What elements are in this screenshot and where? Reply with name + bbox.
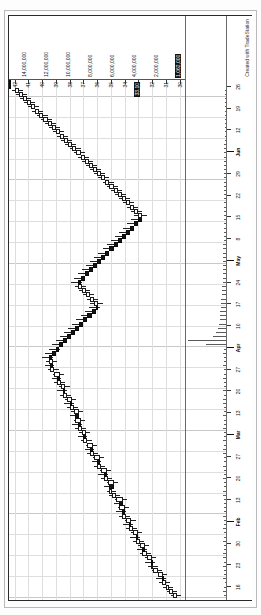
grid-line bbox=[186, 326, 226, 327]
volume-bar bbox=[224, 574, 226, 575]
scale-value[interactable]: 14,000,000 bbox=[21, 52, 27, 77]
date-axis-label: May bbox=[235, 256, 241, 266]
candle-body bbox=[169, 589, 173, 594]
volume-bar bbox=[218, 328, 226, 329]
volume-bar bbox=[225, 140, 226, 141]
chart-frame[interactable]: GBP Daily 563243 42414039383736353433323… bbox=[8, 15, 252, 601]
volume-bar bbox=[223, 282, 227, 283]
volume-pane[interactable] bbox=[186, 16, 227, 600]
volume-bar bbox=[224, 570, 226, 571]
volume-bar bbox=[224, 361, 226, 362]
volume-bar bbox=[225, 90, 226, 91]
price-axis-tick bbox=[125, 80, 126, 84]
scale-value[interactable]: 8,000,000 bbox=[87, 55, 93, 77]
scale-value[interactable]: 4,000,000 bbox=[131, 55, 137, 77]
volume-bar bbox=[224, 511, 226, 512]
candle-body bbox=[64, 138, 68, 143]
candle-body bbox=[122, 196, 126, 201]
grid-line bbox=[186, 117, 226, 118]
scale-value[interactable]: 2,000,000 bbox=[153, 55, 159, 77]
date-axis-tick bbox=[227, 347, 234, 348]
date-axis-label: Apr bbox=[235, 344, 241, 353]
candle-body bbox=[68, 142, 72, 147]
grid-line bbox=[186, 555, 226, 556]
date-axis-label: 27 bbox=[235, 454, 241, 460]
volume-bar bbox=[224, 595, 226, 596]
volume-bar bbox=[224, 457, 226, 458]
date-axis-label: 15 bbox=[235, 215, 241, 221]
volume-bar bbox=[223, 390, 226, 391]
volume-bar bbox=[224, 374, 226, 375]
grid-line bbox=[83, 16, 84, 600]
volume-bar bbox=[224, 148, 226, 149]
candle-body bbox=[82, 430, 86, 435]
candle-body bbox=[134, 209, 138, 214]
grid-line bbox=[138, 16, 139, 600]
date-axis-tick bbox=[227, 173, 231, 174]
volume-bar bbox=[224, 520, 226, 521]
volume-bar bbox=[224, 470, 226, 471]
volume-bar bbox=[224, 236, 226, 237]
volume-bar bbox=[224, 173, 226, 174]
volume-bar bbox=[224, 507, 226, 508]
screenshot-root: GBP Daily 563243 42414039383736353433323… bbox=[0, 0, 261, 615]
scale-value-selected[interactable]: 1,062,000 bbox=[175, 54, 181, 78]
date-axis-label: 26 bbox=[235, 84, 241, 90]
date-axis-tick bbox=[227, 303, 231, 304]
candle-body bbox=[31, 104, 35, 109]
price-axis-tick bbox=[28, 80, 29, 84]
volume-bar bbox=[224, 482, 226, 483]
volume-bar bbox=[223, 365, 226, 366]
volume-bar bbox=[223, 591, 226, 592]
candle-body bbox=[97, 171, 101, 176]
volume-bar bbox=[223, 478, 226, 479]
candle-body bbox=[153, 568, 157, 573]
candle-body bbox=[90, 297, 94, 302]
date-axis-label: 27 bbox=[235, 367, 241, 373]
price-axis-tick bbox=[83, 80, 84, 84]
candle-body bbox=[116, 497, 123, 502]
volume-bar bbox=[224, 461, 226, 462]
volume-bar bbox=[224, 177, 226, 178]
date-axis-pane[interactable]: 162330Feb132027Mar132027Apr101724May8152… bbox=[227, 16, 252, 600]
date-axis-tick bbox=[227, 434, 234, 435]
volume-bar bbox=[223, 403, 226, 404]
candle-body bbox=[19, 92, 23, 97]
date-axis-label: Mar bbox=[235, 430, 241, 439]
date-axis-tick bbox=[227, 390, 231, 391]
date-axis-label: 30 bbox=[235, 541, 241, 547]
grid-line bbox=[186, 179, 226, 180]
scale-value[interactable]: 6,000,000 bbox=[109, 55, 115, 77]
volume-bar bbox=[220, 311, 226, 312]
grid-line bbox=[186, 242, 226, 243]
date-axis-label: 24 bbox=[235, 280, 241, 286]
scale-value[interactable]: 12,000,000 bbox=[43, 52, 49, 77]
price-axis-tick bbox=[166, 80, 167, 84]
volume-bar bbox=[224, 144, 226, 145]
volume-bar bbox=[223, 495, 226, 496]
date-axis-label: 29 bbox=[235, 171, 241, 177]
date-axis-label: 17 bbox=[235, 302, 241, 308]
candle-body bbox=[52, 125, 56, 130]
candle-body bbox=[93, 167, 97, 172]
price-pane[interactable]: 4241403938373635343332313033.10 14,000,0… bbox=[9, 16, 186, 600]
volume-bar bbox=[223, 441, 226, 442]
date-axis-tick bbox=[227, 216, 231, 217]
volume-bar bbox=[221, 299, 226, 300]
date-axis-label: Feb bbox=[235, 517, 241, 526]
date-axis-label: 8 bbox=[235, 238, 241, 241]
scale-value[interactable]: 10,000,000 bbox=[65, 52, 71, 77]
volume-bar bbox=[223, 248, 226, 249]
candle-body bbox=[86, 292, 90, 297]
date-axis-tick bbox=[227, 499, 231, 500]
rotated-chart-wrapper: GBP Daily 563243 42414039383736353433323… bbox=[0, 0, 261, 615]
price-axis-tick bbox=[70, 80, 71, 84]
price-scale-strip[interactable]: 14,000,00012,000,00010,000,0008,000,0006… bbox=[9, 16, 185, 80]
volume-bar bbox=[223, 449, 226, 450]
volume-bar bbox=[223, 261, 226, 262]
grid-line bbox=[186, 200, 226, 201]
grid-line bbox=[186, 388, 226, 389]
volume-bar bbox=[221, 303, 226, 304]
grid-line bbox=[166, 16, 167, 600]
date-axis-label: 19 bbox=[235, 106, 241, 112]
